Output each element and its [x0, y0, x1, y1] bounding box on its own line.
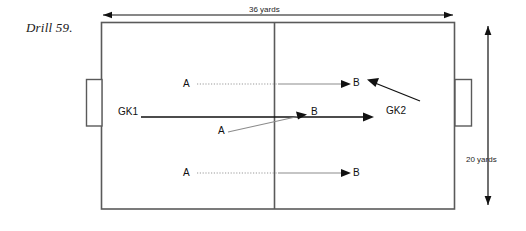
- player-label-gk2: GK2: [386, 105, 406, 116]
- right-goal: [455, 80, 472, 127]
- player-label-a-mid: A: [218, 125, 225, 136]
- dimension-height-label: 20 yards: [466, 155, 497, 164]
- player-label-gk1: GK1: [118, 106, 138, 117]
- player-label-b-mid: B: [311, 106, 318, 117]
- player-label-a-top: A: [183, 78, 190, 89]
- player-label-a-bottom: A: [183, 167, 190, 178]
- dimension-height-arrow-top: [485, 26, 492, 35]
- dimension-height: [485, 26, 492, 205]
- player-label-b-bottom: B: [353, 167, 360, 178]
- drill-title: Drill 59.: [26, 20, 73, 36]
- player-label-b-top: B: [353, 77, 360, 88]
- drill-diagram-svg: [0, 0, 526, 231]
- dimension-width-arrow-right: [444, 12, 453, 18]
- left-goal: [87, 80, 103, 127]
- dimension-height-arrow-bottom: [485, 196, 492, 205]
- dimension-width-label: 36 yards: [249, 5, 280, 14]
- drill-diagram-canvas: Drill 59. 36 yards 20 yards A B GK1 A B …: [0, 0, 526, 231]
- dimension-width-arrow-left: [103, 12, 112, 18]
